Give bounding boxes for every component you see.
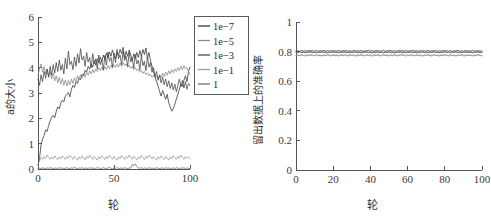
x-tick-label: 0: [293, 173, 299, 185]
left-plot-area: 0501000123456: [29, 11, 199, 184]
y-tick-label: 1: [29, 138, 35, 150]
y-tick-label: 0.2: [278, 134, 292, 146]
left-y-axis-label: a的大小: [4, 79, 16, 115]
figure-container: 0501000123456 轮 a的大小 1e−71e−51e−31e−11 0…: [0, 0, 491, 217]
right-axis-lines: [296, 22, 482, 170]
x-tick-label: 50: [109, 172, 121, 184]
left-x-axis-label: 轮: [108, 198, 119, 211]
series-line: [38, 155, 190, 164]
legend-label[interactable]: 1e−3: [213, 50, 234, 61]
y-tick-label: 0.6: [278, 75, 292, 87]
y-tick-label: 5: [29, 36, 35, 48]
right-y-axis-label: 留出数据上的准确率: [252, 55, 264, 145]
y-tick-label: 0: [29, 163, 35, 175]
y-tick-label: 3: [29, 87, 35, 99]
left-tick-marks: [38, 17, 190, 169]
right-tick-marks: [296, 22, 482, 170]
legend-label[interactable]: 1e−1: [213, 65, 234, 76]
legend-label[interactable]: 1: [213, 79, 218, 90]
legend-label[interactable]: 1e−7: [213, 21, 234, 32]
series-line: [38, 49, 190, 92]
right-series-group: [296, 50, 482, 56]
y-tick-label: 0.8: [278, 46, 292, 58]
y-tick-label: 6: [29, 11, 35, 23]
legend-label[interactable]: 1e−5: [213, 36, 234, 47]
y-tick-label: 0: [287, 164, 293, 176]
x-tick-label: 0: [35, 172, 41, 184]
left-chart-svg: 0501000123456 轮 a的大小 1e−71e−51e−31e−11: [0, 0, 250, 217]
right-chart-svg: 02040608010000.20.40.60.81 轮 留出数据上的准确率: [248, 0, 491, 217]
left-series-group: [38, 47, 190, 168]
legend[interactable]: 1e−71e−51e−31e−11: [194, 16, 248, 94]
y-tick-label: 1: [287, 16, 293, 28]
x-tick-label: 80: [439, 173, 451, 185]
chart-panel-left: 0501000123456 轮 a的大小 1e−71e−51e−31e−11: [0, 0, 250, 217]
x-tick-label: 100: [182, 172, 199, 184]
y-tick-label: 2: [29, 112, 35, 124]
series-line: [38, 63, 190, 86]
y-tick-label: 4: [29, 62, 35, 74]
right-tick-labels: 02040608010000.20.40.60.81: [278, 16, 491, 185]
right-plot-area: 02040608010000.20.40.60.81: [278, 16, 491, 185]
right-x-axis-label: 轮: [367, 198, 378, 211]
left-axis-lines: [38, 17, 190, 169]
chart-panel-right: 02040608010000.20.40.60.81 轮 留出数据上的准确率: [248, 0, 491, 217]
x-tick-label: 100: [474, 173, 491, 185]
x-tick-label: 20: [328, 173, 340, 185]
x-tick-label: 60: [402, 173, 414, 185]
x-tick-label: 40: [365, 173, 377, 185]
y-tick-label: 0.4: [278, 105, 292, 117]
